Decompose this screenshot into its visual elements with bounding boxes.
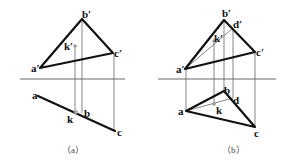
label-k-prime-b: k′ bbox=[214, 32, 223, 44]
label-d-prime-b: d′ bbox=[233, 18, 242, 30]
front-view-triangle-b bbox=[185, 20, 255, 69]
label-b-prime: b′ bbox=[82, 8, 91, 20]
label-c-b: c bbox=[254, 127, 259, 139]
label-b-prime-b: b′ bbox=[222, 7, 231, 19]
label-d-b: d bbox=[233, 94, 239, 106]
panel-b: b′ d′ c′ a′ k′ b d k a c （b） bbox=[158, 7, 276, 155]
caption-b: （b） bbox=[222, 145, 245, 155]
orthographic-projection-diagram: b′ c′ a′ k′ a b k c （a） b′ d′ c′ a′ bbox=[0, 0, 291, 164]
caption-a: （a） bbox=[62, 145, 84, 155]
front-view-triangle-a bbox=[40, 19, 113, 68]
label-c-prime: c′ bbox=[114, 47, 122, 59]
label-k: k bbox=[67, 113, 74, 125]
aux-line-a-d bbox=[186, 98, 233, 111]
label-a-prime: a′ bbox=[31, 62, 40, 74]
panel-a: b′ c′ a′ k′ a b k c （a） bbox=[20, 8, 125, 155]
label-a-b: a bbox=[178, 105, 184, 117]
point-k-prime-marker bbox=[73, 44, 77, 48]
label-a-prime-b: a′ bbox=[176, 63, 185, 75]
label-c-prime-b: c′ bbox=[256, 46, 264, 58]
label-b: b bbox=[84, 107, 90, 119]
point-k-marker bbox=[74, 110, 78, 114]
label-a: a bbox=[32, 89, 38, 101]
label-b-b: b bbox=[224, 84, 230, 96]
label-k-prime: k′ bbox=[64, 40, 73, 52]
label-c: c bbox=[117, 126, 122, 138]
label-k-b: k bbox=[216, 104, 223, 116]
